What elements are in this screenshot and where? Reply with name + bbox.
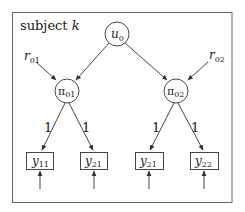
loading-label-y11: 1 [44,120,52,135]
loading-label-y21b: 1 [152,120,160,135]
observed-node-y21b: y21 [136,153,164,170]
frame-label: subject k [20,18,80,33]
latent-node-u0: u0 [105,22,129,46]
disturbance-label-r01: r01 [24,49,40,65]
observed-node-y21a: y21 [81,153,108,170]
path-diagram: subject k u0 r01 r02 π01 π02 1 1 1 1 y11… [0,0,245,212]
loading-label-y21a: 1 [82,120,90,135]
edge-r02-pi02 [188,62,208,80]
latent-node-pi01: π01 [55,79,79,103]
observed-node-y11: y11 [27,153,54,170]
observed-node-y22: y22 [191,153,219,170]
edge-u0-pi01 [76,43,109,80]
edge-u0-pi02 [125,43,167,80]
loading-label-y22: 1 [191,120,199,135]
disturbance-label-r02: r02 [209,48,225,64]
latent-node-pi02: π02 [164,79,188,103]
